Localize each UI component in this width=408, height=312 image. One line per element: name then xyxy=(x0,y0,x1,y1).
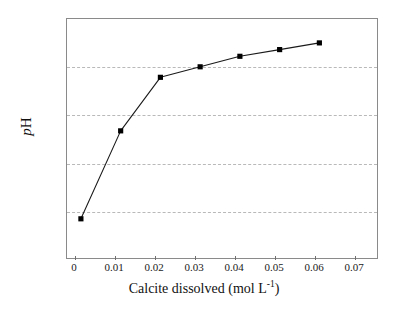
x-axis-title-exponent: -1 xyxy=(267,279,275,289)
x-tick-label: 0.01 xyxy=(104,261,123,273)
data-point xyxy=(237,54,242,59)
y-axis-title: pH xyxy=(18,97,35,157)
data-point xyxy=(78,216,83,221)
x-axis-title: Calcite dissolved (mol L-1) xyxy=(0,279,408,297)
x-axis-title-close: ) xyxy=(275,281,280,296)
x-axis-title-text: Calcite dissolved (mol L xyxy=(129,281,267,296)
y-axis-title-h: H xyxy=(18,117,34,128)
series-markers xyxy=(78,40,322,221)
chart-figure: 6 5 4 3 2 1 0 0.01 0.02 0.03 0.04 0.05 0… xyxy=(0,0,408,312)
x-tick-label: 0.02 xyxy=(144,261,163,273)
x-tick-label: 0 xyxy=(71,261,77,273)
data-point xyxy=(277,47,282,52)
plot-area xyxy=(66,18,378,259)
x-tick-label: 0.06 xyxy=(304,261,323,273)
x-tick-label: 0.05 xyxy=(264,261,283,273)
data-series-layer xyxy=(67,19,377,258)
data-point xyxy=(158,75,163,80)
x-tick-label: 0.04 xyxy=(224,261,243,273)
data-point xyxy=(118,128,123,133)
data-point xyxy=(198,64,203,69)
x-tick-label: 0.03 xyxy=(184,261,203,273)
x-tick-label: 0.07 xyxy=(344,261,363,273)
data-point xyxy=(317,40,322,45)
y-axis-title-p: p xyxy=(18,128,34,136)
